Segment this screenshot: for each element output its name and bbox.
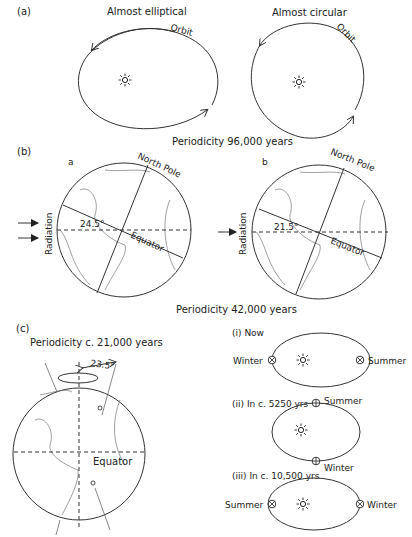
state-now-winter: Winter <box>233 356 263 366</box>
angle-21-5: 21.5° <box>274 222 299 232</box>
globe-b <box>252 165 388 299</box>
panel-b-label: (b) <box>17 146 31 157</box>
elliptical-title: Almost elliptical <box>107 6 187 17</box>
sun-icon <box>293 76 306 89</box>
earth-summer-icon <box>268 500 276 508</box>
state-5250-label: (ii) In c. 5250 yrs <box>232 399 309 409</box>
state-10500-label: (iii) In c. 10,500 yrs <box>232 471 320 481</box>
sun-icon <box>297 498 310 511</box>
angle-23-5: 23.5° <box>90 358 116 371</box>
earth-summer-icon <box>312 399 320 407</box>
state-10500-summer: Summer <box>225 500 263 510</box>
periodicity-96k: Periodicity 96,000 years <box>172 136 293 147</box>
panel-c: (c) Periodicity c. 21,000 years 23.5° Eq… <box>13 323 406 535</box>
radiation-label-a: Radiation <box>44 212 54 255</box>
earth-winter-icon <box>312 457 320 465</box>
panel-c-label: (c) <box>16 323 29 334</box>
sun-icon <box>295 424 308 437</box>
periodicity-42k: Periodicity 42,000 years <box>176 304 297 315</box>
orbit-label-elliptical: Orbit <box>169 22 194 38</box>
panel-a-label: (a) <box>17 6 31 17</box>
orbit-state-now: (i) Now Winter Summer <box>232 328 406 387</box>
orbit-state-10500: (iii) In c. 10,500 yrs Summer Winter <box>225 471 397 530</box>
elliptical-orbit <box>88 29 218 105</box>
earth-summer-icon <box>356 356 364 364</box>
orbit-state-5250: (ii) In c. 5250 yrs Summer Winter <box>232 396 362 473</box>
angle-24-5: 24.5° <box>80 219 105 229</box>
panel-a: (a) Almost elliptical Almost circular Or… <box>17 6 364 147</box>
circular-title: Almost circular <box>272 7 348 18</box>
orbit-label-circular: Orbit <box>335 21 358 44</box>
globe-a <box>57 163 191 297</box>
elliptical-orbit-lower <box>78 55 207 129</box>
sub-label-b: b <box>262 157 268 167</box>
sun-icon <box>119 74 132 87</box>
equator-label-c: Equator <box>93 456 133 467</box>
sun-icon <box>297 354 310 367</box>
panel-b: (b) a b North Pole Equator 24.5° Radiati… <box>17 146 388 315</box>
state-5250-summer: Summer <box>324 396 362 406</box>
state-5250-winter: Winter <box>324 463 354 473</box>
sub-label-a: a <box>68 157 74 167</box>
state-now-summer: Summer <box>368 356 406 366</box>
periodicity-21k: Periodicity c. 21,000 years <box>30 337 163 348</box>
milankovitch-diagram: (a) Almost elliptical Almost circular Or… <box>0 0 412 537</box>
earth-winter-icon <box>268 356 276 364</box>
state-10500-winter: Winter <box>367 500 397 510</box>
state-now-label: (i) Now <box>232 328 264 338</box>
radiation-label-b: Radiation <box>238 212 248 255</box>
precession-globe <box>13 362 145 535</box>
earth-winter-icon <box>356 500 364 508</box>
